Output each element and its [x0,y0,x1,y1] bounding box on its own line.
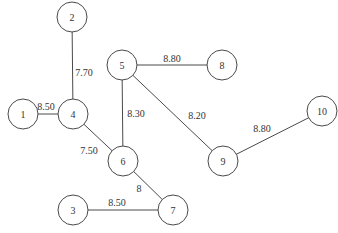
edge-9-10 [223,111,322,161]
graph-node-2: 2 [57,2,87,32]
node-label: 9 [221,156,226,167]
edge-weight-label: 8.20 [188,110,206,121]
graph-node-4: 4 [58,99,88,129]
graph-node-5: 5 [107,50,137,80]
node-label: 2 [70,12,75,23]
edge-weight-label: 8.50 [108,197,126,208]
node-label: 6 [121,156,126,167]
node-label: 10 [317,106,327,117]
edge-weight-label: 8.30 [127,108,145,119]
graph-node-7: 7 [158,195,188,225]
node-label: 3 [71,205,76,216]
node-label: 7 [171,205,176,216]
graph-node-6: 6 [108,146,138,176]
edge-weight-label: 8.50 [37,101,55,112]
weighted-graph-diagram: 8.507.707.508.308.808.2088.508.80 123456… [0,0,338,233]
graph-node-8: 8 [207,50,237,80]
edge-weight-label: 8 [137,183,142,194]
node-label: 4 [71,109,76,120]
node-label: 1 [21,109,26,120]
node-label: 5 [120,60,125,71]
edge-weight-label: 8.80 [253,123,271,134]
graph-node-9: 9 [208,146,238,176]
edge-weight-label: 8.80 [163,53,181,64]
graph-node-3: 3 [58,195,88,225]
graph-node-10: 10 [307,96,337,126]
node-label: 8 [220,60,225,71]
edge-weight-label: 7.50 [80,145,98,156]
graph-node-1: 1 [8,99,38,129]
edge-weight-label: 7.70 [75,67,93,78]
